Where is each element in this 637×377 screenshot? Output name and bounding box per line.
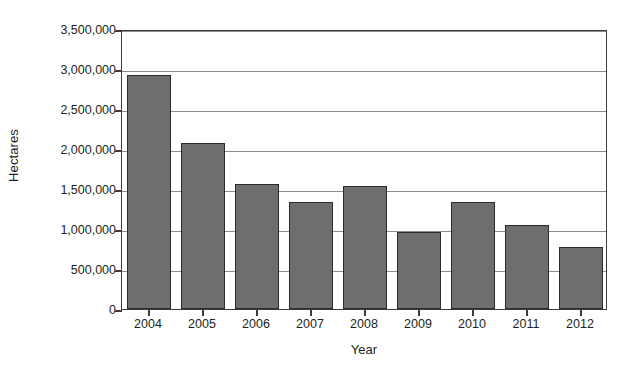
bar — [181, 143, 225, 309]
y-axis-title: Hectares — [0, 0, 26, 310]
y-axis-tick-label: 0 — [24, 304, 116, 317]
y-axis-tick-label: 2,000,000 — [24, 144, 116, 157]
x-axis-tick-label: 2005 — [175, 316, 229, 332]
x-axis-tick-label: 2011 — [499, 316, 553, 332]
bar — [451, 202, 495, 309]
bar — [235, 184, 279, 309]
x-axis-tick-label: 2004 — [121, 316, 175, 332]
y-axis-tick-label: 3,500,000 — [24, 24, 116, 37]
x-axis-tick-label: 2012 — [553, 316, 607, 332]
x-axis-tick-label: 2006 — [229, 316, 283, 332]
x-axis-tick-label: 2010 — [445, 316, 499, 332]
y-axis-tick-label: 1,500,000 — [24, 184, 116, 197]
y-axis-tick-label: 2,500,000 — [24, 104, 116, 117]
x-axis-title: Year — [121, 342, 607, 357]
bar-series — [122, 31, 606, 309]
x-axis-tick-label: 2008 — [337, 316, 391, 332]
x-axis-tick-label: 2007 — [283, 316, 337, 332]
bar — [343, 186, 387, 309]
plot-area — [121, 30, 607, 310]
x-axis-tick-labels: 200420052006200720082009201020112012 — [121, 316, 607, 336]
bar — [397, 232, 441, 309]
bar-chart-figure: Hectares 0500,0001,000,0001,500,0002,000… — [0, 0, 637, 377]
y-axis-tick-label: 500,000 — [24, 264, 116, 277]
bar — [505, 225, 549, 309]
y-axis-tick-label: 1,000,000 — [24, 224, 116, 237]
x-axis-tick-label: 2009 — [391, 316, 445, 332]
bar — [289, 202, 333, 309]
y-axis-tick-label: 3,000,000 — [24, 64, 116, 77]
y-axis-tick-labels: 0500,0001,000,0001,500,0002,000,0002,500… — [24, 0, 116, 340]
y-axis-title-label: Hectares — [6, 129, 21, 182]
bar — [127, 75, 171, 309]
bar — [559, 247, 603, 309]
